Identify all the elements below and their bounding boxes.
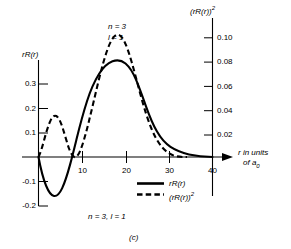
left-tick-label-0: 0.3 (14, 79, 36, 88)
annotation-bottom: n = 3, l = 1 (88, 212, 126, 221)
legend-swatches (137, 184, 164, 195)
x-axis-title-line2: of a0 (243, 158, 260, 171)
left-tick-label-4: -0.2 (10, 201, 36, 210)
left-axis-title: rR(r) (22, 50, 38, 59)
annotation-quantum-n: n = 3 (108, 22, 126, 31)
series-rR-curve (39, 60, 213, 196)
right-tick-label-0: 0.10 (217, 33, 233, 42)
x-tick-label-1: 20 (119, 166, 134, 175)
left-tick-label-1: 0.2 (14, 104, 36, 113)
figure-caption: (c) (129, 233, 138, 242)
x-axis-arrow-icon (222, 153, 233, 161)
x-tick-label-3: 40 (205, 166, 220, 175)
right-tick-label-3: 0.04 (217, 106, 233, 115)
x-axis-title-subscript: 0 (256, 163, 259, 169)
right-axis-title: (rR(r))2 (190, 4, 215, 16)
legend-item-label-1: (rR(r))2 (169, 190, 194, 202)
x-axis-title-of: of (243, 158, 252, 167)
x-tick-label-2: 30 (162, 166, 177, 175)
right-axis-title-exponent: 2 (212, 5, 215, 11)
legend-item-1-exponent: 2 (191, 191, 194, 197)
chart-plot-area (0, 0, 291, 249)
series-rR-squared-curve (39, 35, 188, 157)
right-tick-label-2: 0.06 (217, 82, 233, 91)
figure-container: rR(r) 0.3 0.2 0.1 -0.1 -0.2 (rR(r))2 0.1… (0, 0, 291, 249)
left-tick-label-2: 0.1 (14, 128, 36, 137)
annotation-quantum-l: l = 1 (108, 33, 123, 42)
legend-item-1-base: (rR(r)) (169, 193, 191, 202)
right-axis-title-base: (rR(r)) (190, 7, 212, 16)
x-tick-label-0: 10 (75, 166, 90, 175)
right-tick-label-1: 0.08 (217, 57, 233, 66)
left-tick-label-3: -0.1 (10, 177, 36, 186)
right-tick-label-4: 0.02 (217, 130, 233, 139)
legend-item-label-0: rR(r) (169, 179, 185, 188)
x-axis-title-line1: r in units (238, 148, 268, 157)
